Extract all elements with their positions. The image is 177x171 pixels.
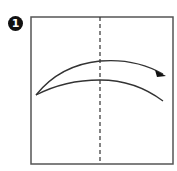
paper-square	[31, 17, 173, 164]
fold-diagram	[0, 0, 177, 171]
